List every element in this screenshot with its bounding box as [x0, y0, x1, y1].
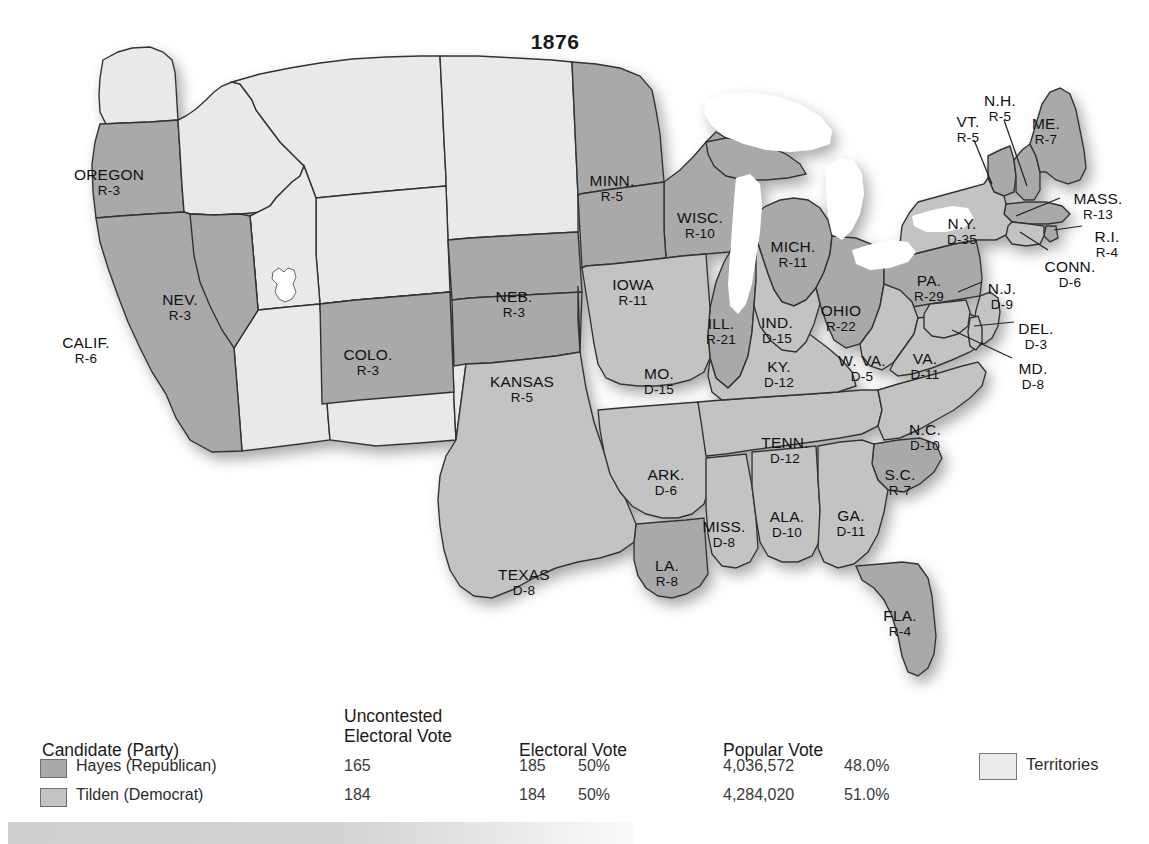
state-alabama [752, 446, 820, 562]
bottom-bar [8, 822, 633, 844]
territory-dakota [440, 56, 578, 240]
legend-popular-pct-hayes: 48.0% [844, 757, 889, 775]
legend-electoral-pct-tilden: 50% [578, 786, 610, 804]
state-missouri [582, 254, 710, 386]
legend-uncontested-hayes: 165 [344, 757, 371, 775]
map-graphic [0, 0, 1149, 700]
legend-electoral-hayes: 185 [519, 757, 546, 775]
state-oregon [92, 120, 184, 218]
legend-swatch-hayes [40, 759, 67, 778]
legend-label-territories: Territories [1026, 755, 1098, 774]
state-iowa [578, 182, 666, 268]
state-colorado [320, 292, 454, 404]
legend-uncontested-tilden: 184 [344, 786, 371, 804]
leader-ri [1054, 226, 1082, 230]
state-rhodeisland [1044, 226, 1058, 242]
state-texas [438, 352, 636, 598]
electoral-map: OREGONR-3CALIF.R-6NEV.R-3COLO.R-3NEB.R-3… [0, 0, 1149, 700]
state-mississippi [706, 454, 758, 568]
territory-washington [99, 47, 178, 124]
legend-candidate-hayes: Hayes (Republican) [76, 757, 217, 775]
state-kansas [452, 286, 582, 366]
legend-electoral-pct-hayes: 50% [578, 757, 610, 775]
lake-huron [826, 158, 864, 240]
map-landmass [92, 47, 1086, 676]
legend-candidate-tilden: Tilden (Democrat) [76, 786, 203, 804]
state-minnesota [572, 62, 664, 196]
state-delaware [968, 316, 982, 350]
legend-electoral-tilden: 184 [519, 786, 546, 804]
legend-popular-pct-tilden: 51.0% [844, 786, 889, 804]
page-title: 1876 [0, 30, 1110, 54]
state-connecticut [1006, 222, 1044, 246]
legend-swatch-tilden [40, 788, 67, 807]
state-nebraska [448, 232, 582, 300]
legend-popular-tilden: 4,284,020 [723, 786, 794, 804]
territory-wyoming [316, 186, 450, 304]
state-florida [856, 562, 936, 676]
legend-swatch-territories [979, 753, 1017, 780]
state-massachusetts [1004, 202, 1070, 224]
legend-popular-hayes: 4,036,572 [723, 757, 794, 775]
legend-header-uncontested: Uncontested Electoral Vote [344, 707, 514, 747]
state-louisiana [634, 518, 708, 598]
results-legend: Candidate (Party) Uncontested Electoral … [0, 697, 1149, 807]
